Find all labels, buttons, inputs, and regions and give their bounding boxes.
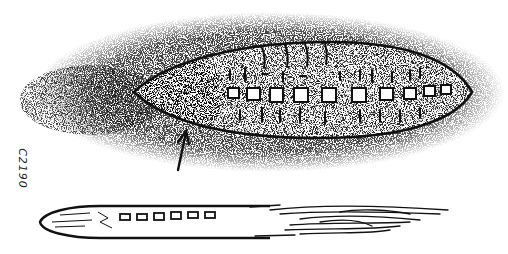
- window: [380, 88, 393, 100]
- catalog-number: C2190: [12, 132, 32, 204]
- lower-object: [40, 205, 448, 238]
- window: [294, 88, 308, 102]
- window: [322, 88, 336, 102]
- window: [171, 212, 181, 219]
- sketch-canvas: [0, 0, 508, 254]
- exhaust-streaks: [250, 205, 448, 236]
- lower-windows: [120, 212, 215, 220]
- window: [228, 88, 239, 98]
- window: [188, 212, 198, 218]
- window: [352, 88, 366, 102]
- window: [205, 212, 215, 218]
- catalog-number-text: C2190: [16, 148, 29, 189]
- window: [120, 214, 130, 220]
- window: [154, 213, 164, 220]
- window: [137, 214, 147, 220]
- window: [247, 88, 260, 100]
- window: [404, 88, 416, 99]
- lower-object-outline: [40, 206, 270, 238]
- window: [424, 86, 435, 96]
- window: [270, 88, 283, 102]
- window: [441, 85, 451, 94]
